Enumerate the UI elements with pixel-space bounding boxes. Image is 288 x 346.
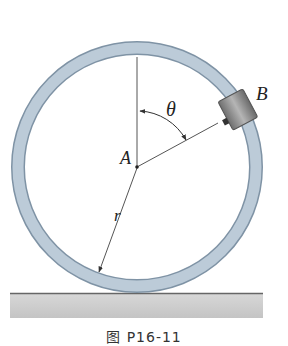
label-collar-b: B	[256, 83, 268, 105]
figure-caption: 图 P16-11	[0, 326, 288, 346]
label-angle-theta: θ	[166, 98, 176, 121]
ground	[10, 293, 263, 318]
label-radius-r: r	[114, 206, 121, 226]
label-center-a: A	[120, 148, 131, 169]
theta-arc-arrow	[140, 111, 186, 140]
radial-line-to-b	[137, 123, 218, 167]
center-point-a	[135, 165, 139, 169]
